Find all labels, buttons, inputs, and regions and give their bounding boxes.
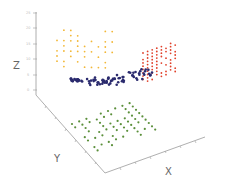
data-point bbox=[170, 66, 172, 68]
data-point bbox=[115, 83, 118, 86]
data-point bbox=[134, 71, 137, 74]
data-point bbox=[94, 78, 97, 81]
data-point bbox=[130, 124, 132, 126]
data-point bbox=[86, 78, 89, 81]
data-point bbox=[77, 35, 79, 37]
data-point bbox=[147, 54, 149, 56]
data-point bbox=[165, 74, 167, 76]
data-point bbox=[63, 50, 65, 52]
data-point bbox=[147, 77, 149, 79]
y-axis-label: Y bbox=[53, 153, 61, 164]
data-point bbox=[103, 116, 105, 118]
data-point bbox=[174, 44, 176, 46]
data-point bbox=[112, 78, 115, 81]
data-point bbox=[132, 105, 134, 107]
data-point bbox=[149, 74, 152, 77]
data-point bbox=[115, 138, 117, 140]
data-point bbox=[104, 51, 106, 53]
data-point bbox=[117, 120, 119, 122]
data-point bbox=[174, 71, 176, 73]
data-point bbox=[111, 144, 113, 146]
data-point bbox=[116, 129, 118, 131]
data-point bbox=[126, 130, 128, 132]
data-point bbox=[102, 81, 105, 84]
data-point bbox=[151, 49, 153, 51]
data-point bbox=[156, 54, 158, 56]
z-ticks bbox=[33, 13, 37, 90]
data-point bbox=[96, 118, 98, 120]
data-point bbox=[70, 56, 72, 58]
data-point bbox=[102, 125, 104, 127]
data-point bbox=[131, 115, 133, 117]
data-point bbox=[148, 122, 150, 124]
data-point bbox=[63, 66, 65, 68]
data-point bbox=[151, 71, 154, 74]
data-point bbox=[117, 77, 120, 80]
data-point bbox=[112, 135, 114, 137]
data-point bbox=[104, 62, 106, 64]
data-point bbox=[77, 78, 80, 81]
data-point bbox=[151, 79, 153, 81]
data-point bbox=[135, 109, 137, 111]
data-point bbox=[110, 113, 112, 115]
data-point bbox=[174, 51, 176, 53]
data-point bbox=[111, 52, 113, 54]
data-point bbox=[124, 117, 126, 119]
data-point bbox=[170, 46, 172, 48]
data-point bbox=[141, 78, 144, 81]
data-point bbox=[107, 78, 110, 81]
data-point bbox=[105, 80, 108, 83]
red-cluster bbox=[142, 43, 176, 83]
data-point bbox=[132, 74, 135, 77]
data-point bbox=[165, 57, 167, 59]
data-point bbox=[93, 146, 95, 148]
data-point bbox=[156, 70, 158, 72]
data-point bbox=[91, 51, 93, 53]
data-point bbox=[84, 136, 86, 138]
data-point bbox=[147, 51, 149, 53]
data-point bbox=[97, 149, 99, 151]
data-point bbox=[121, 76, 124, 79]
data-point bbox=[101, 134, 103, 136]
data-point bbox=[91, 67, 93, 69]
data-point bbox=[56, 50, 58, 52]
data-point bbox=[85, 127, 87, 129]
data-point bbox=[147, 64, 149, 66]
y-axis-line bbox=[36, 95, 105, 173]
data-point bbox=[161, 62, 163, 64]
data-point bbox=[108, 141, 110, 143]
data-point bbox=[147, 80, 149, 82]
data-point bbox=[174, 67, 176, 69]
data-point bbox=[161, 46, 163, 48]
data-point bbox=[81, 80, 84, 83]
data-point bbox=[165, 51, 167, 53]
data-point bbox=[165, 71, 167, 73]
data-point bbox=[147, 57, 149, 59]
data-point bbox=[127, 121, 129, 123]
data-point bbox=[101, 143, 103, 145]
data-point bbox=[70, 40, 72, 42]
data-point bbox=[156, 47, 158, 49]
data-point bbox=[156, 67, 158, 69]
data-point bbox=[137, 121, 139, 123]
data-point bbox=[156, 51, 158, 53]
z-tick-labels: 0 5 10 15 20 25 bbox=[26, 11, 30, 92]
data-point bbox=[140, 68, 143, 71]
data-point bbox=[104, 46, 106, 48]
data-point bbox=[87, 139, 89, 141]
data-point bbox=[120, 123, 122, 125]
data-point bbox=[134, 118, 136, 120]
data-point bbox=[63, 40, 65, 42]
data-point bbox=[116, 74, 119, 77]
data-point bbox=[104, 31, 106, 33]
data-point bbox=[88, 82, 91, 85]
data-point bbox=[78, 120, 80, 122]
data-point bbox=[161, 75, 163, 77]
data-point bbox=[70, 30, 72, 32]
data-point bbox=[74, 126, 76, 128]
y-ticks bbox=[45, 106, 96, 164]
data-point bbox=[136, 79, 139, 82]
data-point bbox=[151, 62, 153, 64]
data-point bbox=[156, 61, 158, 63]
data-point bbox=[161, 49, 163, 51]
